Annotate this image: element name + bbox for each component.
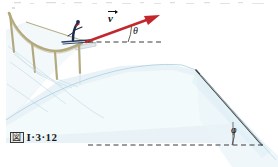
theta-angle-arc xyxy=(128,27,132,43)
theta-angle-label: θ xyxy=(133,26,138,36)
figure-caption: 図I·3·12 xyxy=(10,132,58,144)
caption-number: I·3·12 xyxy=(27,131,58,143)
vector-overbar-icon xyxy=(108,11,117,12)
caption-marker: 図 xyxy=(10,132,24,143)
scan-noise xyxy=(12,2,264,9)
phi-angle-label: φ xyxy=(231,125,237,135)
velocity-symbol: v xyxy=(108,12,113,24)
velocity-vector-label: v xyxy=(108,11,117,24)
velocity-vector-arrow xyxy=(86,15,160,42)
